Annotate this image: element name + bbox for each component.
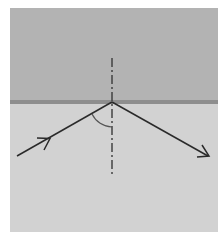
lower-medium	[10, 102, 218, 232]
reflection-diagram	[0, 0, 222, 242]
upper-medium	[10, 8, 218, 102]
